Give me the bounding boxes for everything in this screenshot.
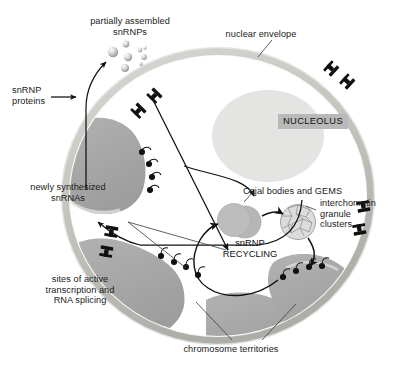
snrnp-particle-icon: [124, 53, 132, 61]
transcription-site-icon: [147, 159, 159, 166]
label-interchromatin-granule-clusters: interchomatin granule clusters: [320, 198, 390, 230]
snrnp-particle-icon: [143, 46, 146, 49]
nuclear-pore-icon: [146, 87, 163, 104]
snrnp-particle-icon: [108, 47, 118, 57]
label-snrnp-proteins: snRNP proteins: [12, 85, 58, 106]
nuclear-pore-icon: [130, 102, 147, 119]
snrnp-particle-icon: [121, 64, 129, 72]
label-snrnp-recycling: snRNP RECYCLING: [219, 237, 281, 259]
snrnp-particle-icon: [123, 41, 130, 48]
label-chromosome-territories: chromosome territories: [166, 344, 296, 355]
snrnp-particle-icon: [141, 54, 147, 60]
diagram-canvas: partially assembled snRNPs nuclear envel…: [0, 0, 410, 365]
nucleolus-body: [212, 90, 324, 182]
nuclear-pore-icon: [339, 73, 356, 90]
label-nucleolus: NUCLEOLUS: [278, 114, 348, 129]
nuclear-pore-icon: [323, 60, 340, 77]
label-newly-synthesized-snrnas: newly synthesized snRNAs: [16, 182, 120, 203]
transcription-site-icon: [184, 259, 194, 270]
leader-sites-2: [128, 222, 226, 250]
label-nuclear-envelope: nuclear envelope: [213, 29, 309, 40]
transcription-site-icon: [148, 185, 160, 192]
snrnp-particle-icon: [138, 48, 143, 53]
transcription-site-icon: [150, 172, 162, 179]
snrnp-particle-icon: [139, 62, 143, 66]
label-sites-of-active-transcription: sites of active transcription and RNA sp…: [28, 274, 132, 306]
label-cajal-bodies-gems: Cajal bodies and GEMS: [243, 186, 371, 197]
label-partially-assembled-snrnps: partially assembled snRNPs: [68, 16, 192, 37]
arrow-cajal-to-igc: [262, 212, 283, 216]
cajal-bodies: [218, 204, 262, 239]
